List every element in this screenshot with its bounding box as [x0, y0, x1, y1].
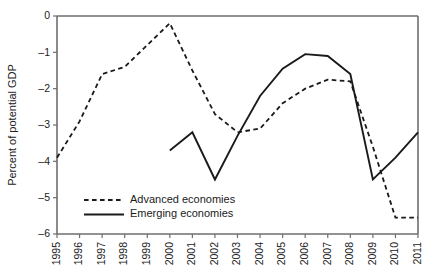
series-solid	[170, 54, 418, 179]
y-tick-label: –6	[38, 227, 50, 239]
x-tick-label: 2010	[388, 242, 400, 266]
x-tick-label: 1997	[95, 242, 107, 266]
legend-label: Emerging economies	[130, 207, 234, 219]
series-dashed	[57, 23, 418, 217]
y-axis-title: Percent of potential GDP	[6, 64, 18, 186]
chart-figure: Percent of potential GDP 0–1–2–3–4–5–6 1…	[0, 0, 437, 276]
x-axis-ticks: 1995199619971998199920002001200220032004…	[50, 234, 423, 265]
x-tick-label: 2009	[366, 242, 378, 266]
y-axis-ticks: 0–1–2–3–4–5–6	[38, 9, 57, 239]
x-tick-label: 2011	[411, 242, 423, 265]
y-tick-label: –2	[38, 82, 50, 94]
y-tick-label: –4	[38, 155, 50, 167]
x-tick-label: 2007	[321, 242, 333, 266]
x-tick-label: 2001	[185, 242, 197, 266]
chart-legend: Advanced economiesEmerging economies	[84, 193, 236, 220]
x-tick-label: 2008	[343, 242, 355, 266]
axis-frame	[57, 16, 418, 234]
x-tick-label: 2006	[298, 242, 310, 266]
y-tick-label: –5	[38, 191, 50, 203]
output-gap-line-chart: Percent of potential GDP 0–1–2–3–4–5–6 1…	[0, 0, 437, 276]
x-tick-label: 2005	[275, 242, 287, 266]
y-tick-label: 0	[44, 9, 50, 21]
x-tick-label: 1999	[140, 242, 152, 266]
series-layer	[57, 23, 418, 217]
x-tick-label: 2004	[253, 242, 265, 266]
x-tick-label: 1998	[117, 242, 129, 266]
x-tick-label: 1995	[50, 242, 62, 266]
y-tick-label: –3	[38, 118, 50, 130]
x-tick-label: 2000	[163, 242, 175, 266]
x-tick-label: 2002	[208, 242, 220, 266]
x-tick-label: 2003	[230, 242, 242, 266]
y-tick-label: –1	[38, 46, 50, 58]
x-tick-label: 1996	[72, 242, 84, 266]
legend-label: Advanced economies	[130, 193, 236, 205]
